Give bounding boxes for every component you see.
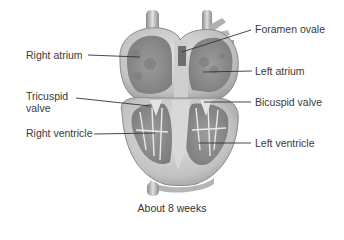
label-bicuspid-valve: Bicuspid valve — [255, 97, 322, 108]
label-left-atrium: Left atrium — [255, 66, 305, 77]
label-left-ventricle: Left ventricle — [255, 138, 315, 149]
caption: About 8 weeks — [0, 202, 344, 214]
atria — [120, 28, 238, 100]
label-right-ventricle: Right ventricle — [26, 128, 93, 139]
label-tricuspid-valve-line2: valve — [26, 103, 51, 114]
label-foramen-ovale: Foramen ovale — [255, 24, 325, 35]
ventricles — [121, 98, 238, 196]
label-right-atrium: Right atrium — [26, 50, 83, 61]
label-tricuspid-valve-line1: Tricuspid — [26, 91, 68, 102]
